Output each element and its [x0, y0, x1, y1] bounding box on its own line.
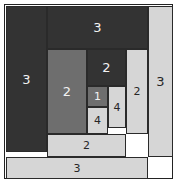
figure-frame: 33332222144 [4, 4, 173, 179]
tile-label: 2 [83, 140, 90, 151]
tile-label: 3 [156, 75, 164, 88]
tile-label: 3 [93, 21, 101, 34]
tile-label: 2 [102, 61, 110, 74]
tile-mid-left-2: 2 [47, 49, 87, 134]
tile-bottom-strip-2: 2 [47, 134, 126, 157]
tile-label: 3 [22, 73, 30, 86]
tile-right-3: 3 [148, 6, 173, 157]
tile-label: 2 [134, 86, 141, 97]
tile-label: 3 [74, 163, 81, 174]
tile-label: 2 [63, 85, 71, 98]
tile-top-3: 3 [47, 6, 148, 49]
tile-bottom-3: 3 [6, 157, 148, 179]
squared-square-figure: 33332222144 [0, 0, 177, 183]
tile-center-1: 1 [87, 86, 108, 107]
tile-upper-mid-2: 2 [87, 49, 126, 86]
tile-label: 4 [94, 115, 101, 126]
tile-label: 4 [114, 102, 121, 113]
tile-lower-4: 4 [87, 107, 108, 134]
tile-right-4: 4 [108, 86, 126, 128]
tile-right-inner-2: 2 [126, 49, 148, 134]
tile-label: 1 [94, 91, 101, 102]
tile-left-3: 3 [6, 6, 47, 152]
